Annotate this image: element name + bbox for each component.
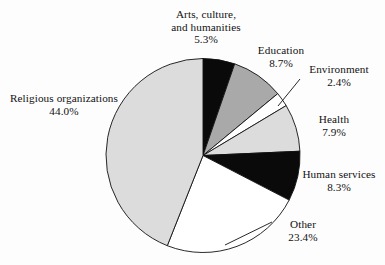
slice-label-education-text: Education <box>258 44 304 56</box>
pie-slice-group <box>106 59 300 253</box>
slice-label-environment: Environment 2.4% <box>294 63 384 88</box>
slice-percent-religious-organizations: 44.0% <box>2 105 126 118</box>
slice-label-human-services-text: Human services <box>302 168 375 180</box>
slice-label-environment-text: Environment <box>309 63 369 75</box>
slice-label-arts-line1: Arts, culture, <box>176 8 236 20</box>
slice-label-arts-line2: and humanities <box>171 21 240 33</box>
slice-percent-human-services: 8.3% <box>296 181 382 194</box>
slice-percent-environment: 2.4% <box>294 76 384 89</box>
slice-label-other-text: Other <box>290 218 316 230</box>
slice-label-health-text: Health <box>319 113 349 125</box>
slice-label-religious-organizations-text: Religious organizations <box>10 92 118 104</box>
pie-chart-figure: Arts, culture, and humanities 5.3% Educa… <box>0 0 385 265</box>
slice-percent-other: 23.4% <box>274 231 332 244</box>
slice-label-other: Other 23.4% <box>274 218 332 243</box>
slice-label-human-services: Human services 8.3% <box>296 168 382 193</box>
slice-label-arts: Arts, culture, and humanities 5.3% <box>146 8 266 46</box>
slice-percent-health: 7.9% <box>304 126 364 139</box>
slice-label-religious-organizations: Religious organizations 44.0% <box>2 92 126 117</box>
slice-label-health: Health 7.9% <box>304 113 364 138</box>
